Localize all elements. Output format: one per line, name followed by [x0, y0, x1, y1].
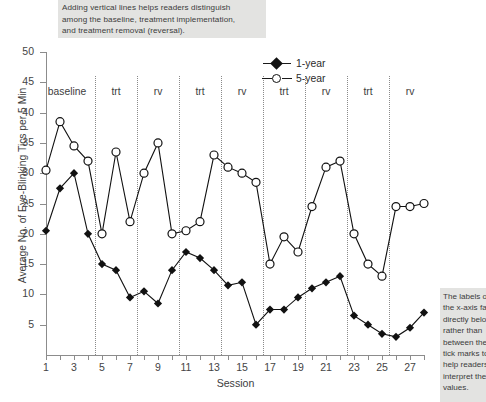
x-axis-tick	[284, 355, 285, 360]
data-point-5-year	[280, 233, 288, 241]
y-axis-tick-label: 25	[0, 197, 34, 209]
top-annotation-line-1: Adding vertical lines helps readers dist…	[62, 2, 262, 14]
phase-divider-line	[221, 76, 222, 355]
data-point-1-year	[154, 299, 162, 307]
data-point-1-year	[336, 272, 344, 280]
right-annotation-line-6: tick marks to	[443, 348, 484, 359]
y-axis-tick	[40, 143, 46, 144]
x-axis-tick-label: 23	[342, 361, 366, 373]
x-axis-tick	[354, 355, 355, 360]
data-point-5-year	[112, 148, 120, 156]
data-point-1-year	[84, 230, 92, 238]
phase-divider-line	[137, 76, 138, 355]
x-axis-tick	[74, 355, 75, 360]
data-point-1-year	[322, 278, 330, 286]
x-axis-tick	[256, 355, 257, 360]
data-point-1-year	[112, 266, 120, 274]
y-axis-tick-label: 45	[0, 75, 34, 87]
series-line-5-year	[46, 122, 424, 277]
data-point-5-year	[98, 230, 106, 238]
x-axis-tick	[158, 355, 159, 360]
data-point-1-year	[126, 293, 134, 301]
data-point-5-year	[266, 260, 274, 268]
data-point-1-year	[56, 184, 64, 192]
x-axis-tick	[60, 355, 61, 360]
data-point-5-year	[238, 169, 246, 177]
x-axis-tick-label: 25	[370, 361, 394, 373]
y-axis-tick	[40, 325, 46, 326]
right-annotation-line-7: help readers	[443, 359, 484, 370]
x-axis-tick-label: 7	[118, 361, 142, 373]
x-axis-tick-label: 27	[398, 361, 422, 373]
x-axis-tick	[410, 355, 411, 360]
y-axis-tick	[40, 234, 46, 235]
y-axis-tick	[40, 294, 46, 295]
legend-label-1-year: 1-year	[296, 58, 325, 69]
data-point-5-year	[154, 139, 162, 147]
x-axis-tick	[200, 355, 201, 360]
x-axis-tick	[396, 355, 397, 360]
y-axis-tick-label: 15	[0, 257, 34, 269]
legend-item-1-year: 1-year	[262, 56, 325, 71]
right-annotation-note: The labels on the x-axis fall directly b…	[440, 288, 486, 402]
x-axis-tick	[340, 355, 341, 360]
data-point-5-year	[406, 203, 414, 211]
x-axis-tick	[172, 355, 173, 360]
y-axis-tick-label: 20	[0, 227, 34, 239]
data-point-5-year	[364, 260, 372, 268]
data-point-5-year	[392, 203, 400, 211]
right-annotation-line-1: The labels on	[443, 291, 484, 302]
x-axis-tick	[228, 355, 229, 360]
x-axis-tick	[214, 355, 215, 360]
y-axis-tick-label: 10	[0, 287, 34, 299]
data-point-5-year	[294, 248, 302, 256]
x-axis-tick	[88, 355, 89, 360]
filled-diamond-marker-icon	[262, 58, 292, 70]
x-axis-tick-label: 11	[174, 361, 198, 373]
data-point-5-year	[336, 157, 344, 165]
x-axis-tick-label: 15	[230, 361, 254, 373]
open-circle-marker-icon	[262, 73, 292, 85]
data-point-5-year	[210, 151, 218, 159]
y-axis-tick-label: 35	[0, 136, 34, 148]
x-axis-tick-label: 13	[202, 361, 226, 373]
right-annotation-line-5: between the	[443, 337, 484, 348]
x-axis-tick	[312, 355, 313, 360]
data-point-1-year	[182, 248, 190, 256]
data-point-5-year	[350, 230, 358, 238]
data-point-5-year	[322, 163, 330, 171]
data-point-5-year	[56, 118, 64, 126]
y-axis-tick	[40, 173, 46, 174]
x-axis-tick	[270, 355, 271, 360]
phase-divider-line	[263, 76, 264, 355]
x-axis-tick-label: 21	[314, 361, 338, 373]
top-annotation-line-2: among the baseline, treatment implementa…	[62, 14, 262, 26]
x-axis-tick-label: 5	[90, 361, 114, 373]
series-line-1-year	[46, 173, 424, 337]
x-axis-tick-label: 17	[258, 361, 282, 373]
x-axis-tick	[186, 355, 187, 360]
data-point-1-year	[196, 254, 204, 262]
data-point-5-year	[70, 142, 78, 150]
data-point-1-year	[98, 260, 106, 268]
data-point-5-year	[224, 163, 232, 171]
chart-legend: 1-year 5-year	[262, 56, 325, 86]
phase-divider-line	[95, 76, 96, 355]
top-annotation-note: Adding vertical lines helps readers dist…	[58, 0, 266, 38]
data-point-1-year	[210, 266, 218, 274]
legend-item-5-year: 5-year	[262, 71, 325, 86]
x-axis-tick	[424, 355, 425, 360]
data-point-1-year	[252, 321, 260, 329]
chart-page: Adding vertical lines helps readers dist…	[0, 0, 486, 402]
x-axis-title: Session	[46, 377, 425, 389]
x-axis-tick-label: 19	[286, 361, 310, 373]
data-point-1-year	[392, 333, 400, 341]
legend-label-5-year: 5-year	[296, 73, 325, 84]
y-axis-title: Average No. of Eye-Blinking Tics per 5 M…	[17, 61, 28, 311]
top-annotation-line-3: and treatment removal (reversal).	[62, 25, 262, 37]
y-axis-tick	[40, 113, 46, 114]
x-axis-tick-label: 1	[34, 361, 58, 373]
x-axis-tick	[46, 355, 47, 360]
x-axis-tick-label: 3	[62, 361, 86, 373]
data-point-1-year	[420, 308, 428, 316]
